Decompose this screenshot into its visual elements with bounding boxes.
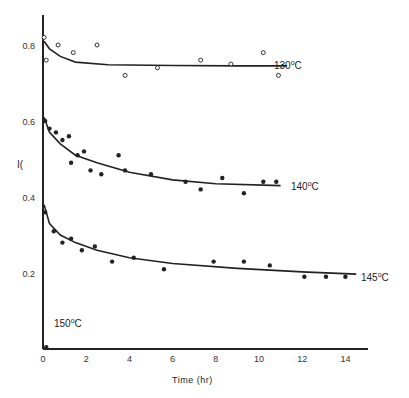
data-point-140: [82, 149, 86, 153]
data-point-150: [44, 345, 48, 349]
unit: C: [295, 60, 302, 71]
data-point-140: [220, 176, 224, 180]
data-point-140: [123, 168, 127, 172]
x-tick-label: 12: [297, 354, 307, 364]
x-tick-label: 6: [170, 354, 175, 364]
data-point-140: [47, 126, 51, 130]
curve-label-150-value: 150: [54, 318, 71, 329]
data-point-130: [44, 58, 48, 62]
data-point-140: [43, 119, 47, 123]
data-point-140: [54, 130, 58, 134]
x-tick-label: 2: [84, 354, 89, 364]
data-point-140: [75, 153, 79, 157]
unit: C: [312, 181, 319, 192]
data-point-130: [123, 73, 127, 77]
data-point-130: [229, 62, 233, 66]
data-point-145: [52, 229, 56, 233]
curve-label-140: 140oC: [291, 180, 319, 192]
curve-label-130-value: 130: [274, 60, 291, 71]
data-point-140: [69, 161, 73, 165]
data-point-145: [80, 248, 84, 252]
x-tick-label: 14: [340, 354, 350, 364]
y-tick-label: 0.6: [22, 117, 35, 127]
unit: C: [382, 272, 389, 283]
curve-label-150: 150oC: [54, 317, 82, 329]
data-point-140: [198, 187, 202, 191]
data-point-140: [149, 172, 153, 176]
data-point-145: [162, 267, 166, 271]
data-point-145: [132, 256, 136, 260]
curve-label-140-value: 140: [291, 181, 308, 192]
data-point-140: [67, 134, 71, 138]
curve-label-145: 145oC: [361, 271, 389, 283]
data-point-145: [60, 240, 64, 244]
data-point-140: [60, 138, 64, 142]
data-point-145: [268, 263, 272, 267]
x-tick-label: 8: [213, 354, 218, 364]
chart-plot-area: 024681012140.20.40.60.8: [0, 0, 409, 398]
curve-label-130: 130oC: [274, 59, 302, 71]
data-point-140: [274, 180, 278, 184]
data-point-130: [56, 43, 60, 47]
data-point-145: [343, 275, 347, 279]
data-point-130: [95, 43, 99, 47]
data-point-145: [302, 275, 306, 279]
fit-curve-130: [44, 41, 287, 66]
data-point-140: [116, 153, 120, 157]
y-tick-label: 0.2: [22, 269, 35, 279]
y-tick-label: 0.4: [22, 193, 35, 203]
data-point-140: [261, 180, 265, 184]
data-point-145: [110, 259, 114, 263]
data-point-140: [88, 168, 92, 172]
data-point-145: [324, 275, 328, 279]
data-point-140: [242, 191, 246, 195]
data-point-140: [183, 180, 187, 184]
data-point-145: [43, 210, 47, 214]
x-tick-label: 4: [127, 354, 132, 364]
data-point-130: [199, 58, 203, 62]
data-point-130: [261, 51, 265, 55]
data-point-130: [42, 35, 46, 39]
data-point-145: [93, 244, 97, 248]
data-point-140: [99, 172, 103, 176]
data-point-130: [276, 73, 280, 77]
y-axis-stray-label: I(: [17, 159, 23, 170]
curve-label-145-value: 145: [361, 272, 378, 283]
data-point-145: [211, 259, 215, 263]
data-point-145: [69, 237, 73, 241]
unit: C: [75, 318, 82, 329]
data-point-130: [71, 51, 75, 55]
x-tick-label: 0: [40, 354, 45, 364]
data-point-145: [242, 259, 246, 263]
x-axis-title: Time (hr): [172, 375, 213, 385]
x-tick-label: 10: [254, 354, 264, 364]
fit-curve-140: [44, 117, 281, 185]
y-tick-label: 0.8: [22, 41, 35, 51]
data-point-130: [155, 66, 159, 70]
fit-curve-145: [44, 205, 356, 275]
